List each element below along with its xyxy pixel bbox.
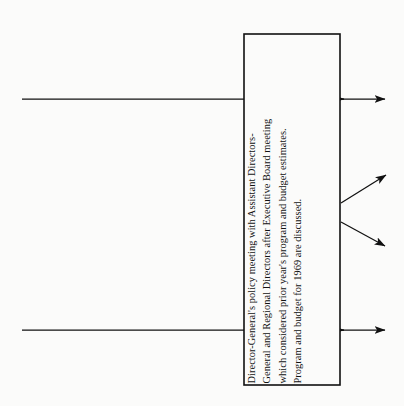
- output-arrow-lower-diagonal: [341, 222, 385, 246]
- process-box: [244, 34, 340, 385]
- flowchart-diagram: Director-General's policy meeting with A…: [0, 0, 404, 406]
- output-arrow-upper-diagonal: [341, 175, 386, 203]
- flowchart-canvas: [0, 0, 404, 406]
